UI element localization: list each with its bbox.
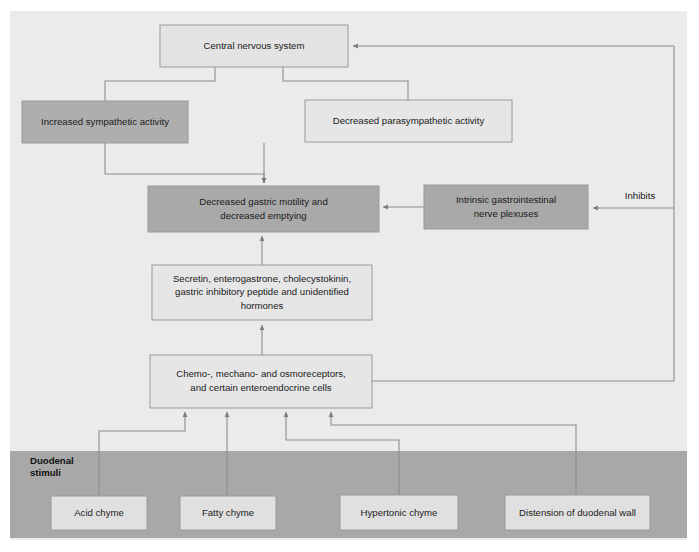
node-decreased-gastric-motility[interactable]: Decreased gastric motility and decreased… bbox=[148, 186, 379, 232]
node-acid-chyme[interactable]: Acid chyme bbox=[51, 496, 147, 530]
node-hypertonic-chyme[interactable]: Hypertonic chyme bbox=[340, 495, 458, 530]
duodenal-stimuli-label-line-1: Duodenal bbox=[30, 455, 74, 466]
node-hormones-line-0: Secretin, enterogastrone, cholecystokini… bbox=[173, 273, 351, 284]
flowchart-svg: Central nervous system Increased sympath… bbox=[0, 0, 699, 552]
node-sympathetic-line-0: Increased sympathetic activity bbox=[41, 116, 169, 127]
node-hormones[interactable]: Secretin, enterogastrone, cholecystokini… bbox=[152, 265, 372, 320]
node-fatty-chyme[interactable]: Fatty chyme bbox=[180, 496, 276, 530]
node-receptors-line-1: and certain enteroendocrine cells bbox=[190, 382, 332, 393]
node-increased-sympathetic-activity[interactable]: Increased sympathetic activity bbox=[22, 101, 188, 143]
node-distension-line-0: Distension of duodenal wall bbox=[519, 507, 636, 518]
figure-canvas: Central nervous system Increased sympath… bbox=[0, 0, 699, 552]
node-decreased-parasympathetic-activity[interactable]: Decreased parasympathetic activity bbox=[305, 100, 512, 142]
node-receptors[interactable]: Chemo-, mechano- and osmoreceptors, and … bbox=[150, 355, 372, 408]
node-gastric-motility-line-0: Decreased gastric motility and bbox=[199, 196, 328, 207]
duodenal-stimuli-label-line-2: stimuli bbox=[30, 467, 61, 478]
node-fatty-chyme-line-0: Fatty chyme bbox=[202, 507, 254, 518]
node-hypertonic-chyme-line-0: Hypertonic chyme bbox=[361, 507, 438, 518]
node-parasympathetic-line-0: Decreased parasympathetic activity bbox=[333, 115, 485, 126]
node-hormones-line-2: hormones bbox=[241, 300, 284, 311]
node-nerve-plexuses-line-0: Intrinsic gastrointestinal bbox=[456, 194, 556, 205]
edge-label-inhibits: Inhibits bbox=[625, 190, 656, 201]
node-cns-line-0: Central nervous system bbox=[204, 40, 305, 51]
node-cns[interactable]: Central nervous system bbox=[160, 25, 348, 67]
node-acid-chyme-line-0: Acid chyme bbox=[74, 507, 124, 518]
node-distension-of-duodenal-wall[interactable]: Distension of duodenal wall bbox=[505, 495, 650, 530]
node-intrinsic-nerve-plexuses[interactable]: Intrinsic gastrointestinal nerve plexuse… bbox=[424, 185, 588, 229]
node-hormones-line-1: gastric inhibitory peptide and unidentif… bbox=[175, 286, 349, 297]
node-receptors-line-0: Chemo-, mechano- and osmoreceptors, bbox=[176, 368, 346, 379]
node-gastric-motility-line-1: decreased emptying bbox=[220, 210, 306, 221]
node-nerve-plexuses-line-1: nerve plexuses bbox=[474, 208, 539, 219]
